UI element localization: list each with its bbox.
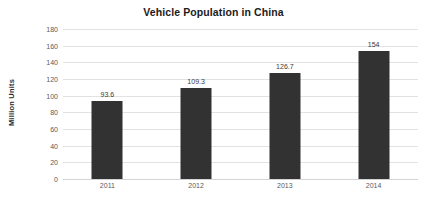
y-axis-tick-label: 60 — [6, 126, 58, 133]
chart-title: Vehicle Population in China — [0, 6, 427, 18]
bar-value-label: 109.3 — [187, 78, 205, 85]
bar[interactable] — [358, 51, 389, 179]
x-axis-tick-labels: 2011201220132014 — [63, 182, 418, 198]
bar-value-label: 154 — [368, 41, 380, 48]
x-axis-tick-label: 2014 — [366, 182, 382, 189]
bar[interactable] — [269, 73, 300, 179]
bar-group: 109.3 — [152, 29, 241, 179]
gridline — [63, 179, 418, 180]
y-axis-tick-label: 20 — [6, 159, 58, 166]
bar-group: 126.7 — [241, 29, 330, 179]
bar-value-label: 93.6 — [101, 91, 115, 98]
bar-chart: Vehicle Population in China Million Unit… — [0, 0, 427, 205]
bar-group: 93.6 — [63, 29, 152, 179]
bar[interactable] — [92, 101, 123, 179]
y-axis-tick-labels: 180160140120100806040200 — [0, 29, 58, 179]
y-axis-tick-label: 100 — [6, 92, 58, 99]
x-axis-tick-label: 2013 — [277, 182, 293, 189]
y-axis-tick-label: 0 — [6, 176, 58, 183]
y-axis-tick-label: 40 — [6, 142, 58, 149]
bar-value-label: 126.7 — [276, 63, 294, 70]
y-axis-tick-label: 160 — [6, 42, 58, 49]
bar[interactable] — [181, 88, 212, 179]
y-axis-tick-label: 140 — [6, 59, 58, 66]
y-axis-tick-label: 120 — [6, 76, 58, 83]
plot-area: 93.6109.3126.7154 — [63, 29, 418, 179]
y-axis-tick-label: 180 — [6, 26, 58, 33]
x-axis-tick-label: 2011 — [100, 182, 115, 189]
y-axis-tick-label: 80 — [6, 109, 58, 116]
x-axis-tick-label: 2012 — [188, 182, 204, 189]
bar-group: 154 — [329, 29, 418, 179]
